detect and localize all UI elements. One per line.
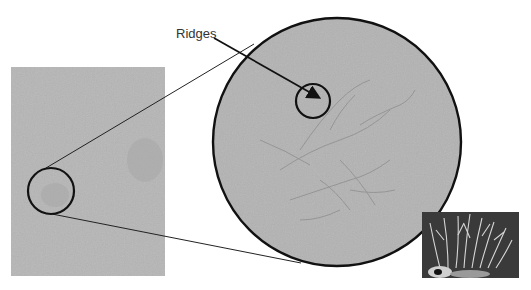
ridges-label: Ridges xyxy=(176,26,216,41)
inset-photo xyxy=(422,212,519,278)
left-photo xyxy=(11,67,165,276)
magnification-diagram xyxy=(0,0,531,290)
